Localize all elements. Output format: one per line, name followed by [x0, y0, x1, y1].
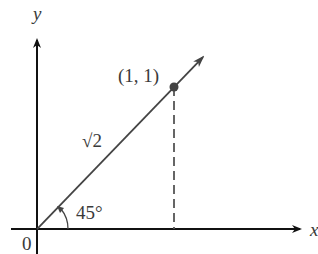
diagram-canvas: y x 0 (1, 1) √2 45° — [0, 0, 318, 254]
y-axis-label: y — [31, 3, 42, 24]
point-label: (1, 1) — [118, 65, 159, 87]
angle-arc — [61, 209, 68, 229]
origin-label: 0 — [22, 233, 32, 254]
vector-length-label: √2 — [82, 130, 102, 151]
point-marker — [170, 83, 179, 92]
x-axis-label: x — [309, 219, 318, 240]
angle-label: 45° — [76, 202, 103, 223]
